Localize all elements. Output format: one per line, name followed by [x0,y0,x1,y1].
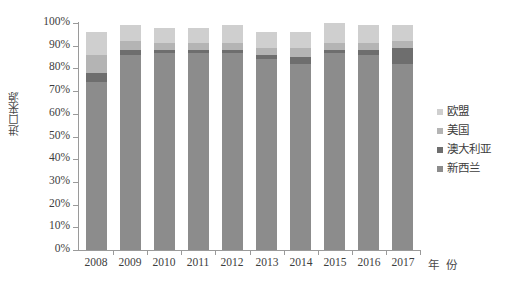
bar-segment-欧盟 [358,25,379,43]
bar-segment-欧盟 [188,28,209,44]
bar-2013 [256,32,277,250]
bar-segment-美国 [358,43,379,50]
x-axis-tick [250,251,251,255]
y-axis-tick-label: 0% [0,242,70,254]
x-axis-tick [215,251,216,255]
bar-2014 [290,32,311,250]
y-axis-tick-label: 100% [0,15,70,27]
bar-segment-新西兰 [324,53,345,250]
y-axis-tick [73,68,78,69]
bar-segment-美国 [222,43,243,50]
bar-2016 [358,25,379,250]
y-axis-tick-label: 90% [0,38,70,50]
bar-segment-澳大利亚 [290,57,311,64]
y-axis-tick-label: 20% [0,197,70,209]
y-axis-tick-label: 50% [0,129,70,141]
bar-2017 [392,25,413,250]
y-axis-tick [73,182,78,183]
bar-segment-新西兰 [120,55,141,250]
y-axis-tick [73,159,78,160]
bar-segment-美国 [154,43,175,50]
bar-segment-美国 [290,48,311,57]
legend-label: 澳大利亚 [447,143,491,156]
bar-segment-新西兰 [358,55,379,250]
x-axis-tick [420,251,421,255]
legend-label: 欧盟 [447,105,469,118]
bar-segment-新西兰 [188,53,209,250]
legend-swatch-icon [437,128,443,134]
bar-2009 [120,25,141,250]
bar-2008 [86,32,107,250]
bar-segment-欧盟 [290,32,311,48]
x-axis-tick [181,251,182,255]
bar-segment-新西兰 [154,53,175,250]
legend-label: 新西兰 [447,162,480,175]
bar-2010 [154,28,175,250]
legend-swatch-icon [437,109,443,115]
bar-segment-美国 [120,41,141,50]
bar-segment-美国 [188,43,209,50]
bar-segment-新西兰 [290,64,311,250]
y-axis-tick [73,91,78,92]
bar-segment-澳大利亚 [392,48,413,64]
legend-item-3[interactable]: 新西兰 [437,159,509,178]
x-axis-tick [318,251,319,255]
bar-segment-新西兰 [392,64,413,250]
x-axis-tick [352,251,353,255]
legend-item-1[interactable]: 美国 [437,121,509,140]
chart-legend: 欧盟美国澳大利亚新西兰 [437,102,509,178]
stacked-bar-chart: 进口来源 0%10%20%30%40%50%60%70%80%90%100% 2… [0,0,512,290]
legend-item-2[interactable]: 澳大利亚 [437,140,509,159]
legend-swatch-icon [437,166,443,172]
legend-label: 美国 [447,124,469,137]
y-axis-tick [73,250,78,251]
x-axis-tick [113,251,114,255]
bar-segment-新西兰 [222,53,243,250]
bar-segment-欧盟 [324,23,345,43]
y-axis-tick-label: 10% [0,219,70,231]
x-axis-tick [386,251,387,255]
bar-segment-欧盟 [222,25,243,43]
y-axis-tick-label: 80% [0,60,70,72]
bar-segment-欧盟 [86,32,107,55]
legend-item-0[interactable]: 欧盟 [437,102,509,121]
bar-segment-美国 [256,48,277,55]
x-axis-tick [147,251,148,255]
bar-2011 [188,28,209,250]
bar-segment-新西兰 [86,82,107,250]
bar-segment-欧盟 [154,28,175,44]
bar-segment-美国 [86,55,107,73]
bar-segment-欧盟 [392,25,413,41]
y-axis-tick-label: 60% [0,106,70,118]
bar-2012 [222,25,243,250]
x-axis-title: 年 份 [428,256,459,272]
bar-segment-欧盟 [256,32,277,48]
plot-area [79,23,420,250]
bar-segment-欧盟 [120,25,141,41]
legend-swatch-icon [437,147,443,153]
y-axis-tick [73,114,78,115]
bar-segment-新西兰 [256,59,277,250]
y-axis-tick-label: 30% [0,174,70,186]
bar-segment-美国 [324,43,345,50]
bar-2015 [324,23,345,250]
y-axis-tick-label: 70% [0,83,70,95]
bar-segment-澳大利亚 [86,73,107,82]
bar-segment-美国 [392,41,413,48]
y-axis-tick [73,46,78,47]
x-axis-tick-label: 2017 [381,256,425,268]
y-axis-tick [73,227,78,228]
y-axis-tick [73,205,78,206]
y-axis-tick-label: 40% [0,151,70,163]
x-axis-tick [284,251,285,255]
y-axis-tick [73,23,78,24]
y-axis-tick [73,137,78,138]
